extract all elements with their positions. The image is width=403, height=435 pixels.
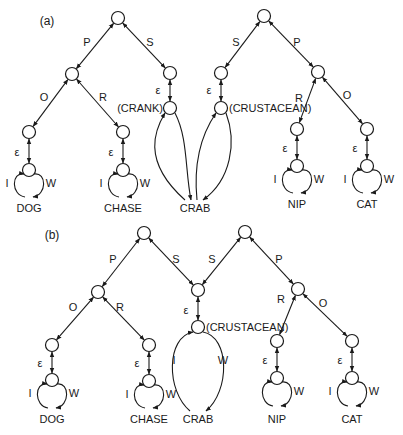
loop-label-i: I (343, 173, 346, 185)
node-b2_r (271, 335, 284, 348)
loop-arc-right (56, 384, 67, 408)
word-chase: CHASE (130, 413, 168, 425)
crab-loop-right (203, 332, 224, 411)
node-b1_p (92, 286, 105, 299)
sense-tag: (CRANK) (117, 102, 163, 114)
loop-arc-left (282, 170, 293, 193)
edge-label: R (277, 293, 285, 305)
node-b2_o (346, 335, 359, 348)
word-dog: DOG (39, 413, 64, 425)
node-b1_r (143, 339, 156, 352)
crustacean-loop-up (196, 113, 216, 200)
node-a1_o (23, 126, 36, 139)
crustacean-loop-down (203, 113, 231, 200)
node-b1_r_lo (143, 375, 156, 388)
edge-label: S (232, 36, 239, 48)
node-a1_s (164, 67, 177, 80)
node-a2_r (291, 123, 304, 136)
loop-arc-right (127, 174, 138, 197)
edge-a2_root-a2_s (225, 22, 260, 68)
loop-label-i: I (125, 388, 128, 400)
node-b2_r_lo (271, 372, 284, 385)
loop-label-i: I (99, 177, 102, 189)
loop-label-i: I (328, 385, 331, 397)
node-bs_lo (192, 321, 205, 334)
loop-label-i: I (5, 177, 8, 189)
node-a2_o (361, 123, 374, 136)
edge-a2_root-a2_p (269, 21, 313, 67)
loop-label-w: W (46, 177, 57, 189)
loop-label-w: W (218, 354, 229, 366)
sense-tag: (CRUSTACEAN) (206, 321, 288, 333)
word-cat: CAT (356, 198, 377, 210)
edge-label: ε (207, 84, 212, 96)
loop-arc-right (356, 382, 367, 406)
edge-b1_root-b1_p (102, 239, 139, 287)
edge-label: ε (109, 146, 114, 158)
node-b1_root (138, 227, 151, 240)
edge-label: ε (156, 84, 161, 96)
edge-label: S (172, 253, 179, 265)
loop-arc-left (352, 170, 363, 193)
word-dog: DOG (16, 202, 41, 214)
edge-label: O (319, 297, 328, 309)
edge-label: ε (15, 146, 20, 158)
node-b2_root (239, 226, 252, 239)
edge-a1_p-a1_r (77, 79, 119, 126)
edge-label: P (83, 36, 90, 48)
node-a2_o_lo (361, 160, 374, 173)
sense-tag: (CRUSTACEAN) (229, 102, 311, 114)
node-a2_p (312, 66, 325, 79)
loop-label-i: I (172, 354, 175, 366)
node-a2_root (258, 10, 271, 23)
loop-label-w: W (384, 173, 395, 185)
node-a1_r (117, 126, 130, 139)
edge-label: S (146, 36, 153, 48)
crank-loop-down (175, 113, 191, 200)
node-a1_p (66, 68, 79, 81)
word-crab: CRAB (183, 413, 214, 425)
panel-label-a: (a) (40, 14, 55, 28)
word-crab: CRAB (180, 202, 211, 214)
edge-label: P (293, 36, 300, 48)
word-nip: NIP (268, 413, 286, 425)
edge-label: P (275, 253, 282, 265)
loop-arc-left (14, 174, 25, 197)
loop-label-w: W (314, 173, 325, 185)
edge-a1_root-a1_s (123, 23, 165, 68)
edge-label: O (343, 89, 352, 101)
loop-arc-left (337, 382, 348, 406)
loop-arc-left (134, 385, 145, 408)
edge-label: ε (283, 142, 288, 154)
loop-label-w: W (69, 387, 80, 399)
loop-arc-left (37, 384, 48, 408)
labels-layer: (a)PSORεεεSPεROεεIWDOGIWCHASEIWNIPIWCATC… (5, 14, 394, 425)
node-b2_p (292, 283, 305, 296)
semantic-network-figure: (a)PSORεεεSPεROεεIWDOGIWCHASEIWNIPIWCATC… (0, 0, 403, 435)
node-b1_o (46, 339, 59, 352)
loop-arc-left (262, 382, 273, 406)
node-b1_o_lo (46, 374, 59, 387)
edge-b1_root-bs (149, 238, 193, 285)
edge-a1_p-a1_o (33, 80, 68, 127)
loop-arc-right (301, 170, 312, 193)
panel-label-b: (b) (45, 228, 60, 242)
word-nip: NIP (288, 198, 306, 210)
edge-label: O (69, 301, 78, 313)
network-diagram-canvas: (a)PSORεεεSPεROεεIWDOGIWCHASEIWNIPIWCATC… (0, 0, 403, 435)
edge-label: ε (353, 142, 358, 154)
loop-label-w: W (140, 177, 151, 189)
node-a2_s_lo (215, 102, 228, 115)
loop-label-w: W (369, 385, 380, 397)
node-bs (192, 284, 205, 297)
edge-label: P (109, 253, 116, 265)
edge-label: ε (338, 354, 343, 366)
node-a2_r_lo (291, 160, 304, 173)
edge-b2_root-b2_p (250, 237, 293, 284)
edge-label: O (40, 91, 49, 103)
node-a1_root (112, 12, 125, 25)
edge-label: ε (263, 354, 268, 366)
loop-label-w: W (294, 385, 305, 397)
loop-arc-left (108, 174, 119, 197)
node-b2_o_lo (346, 372, 359, 385)
